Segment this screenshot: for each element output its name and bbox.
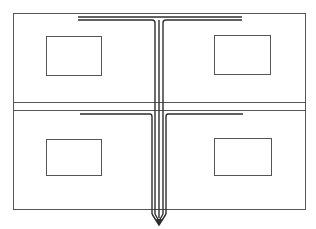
window-top-right (215, 36, 271, 75)
lower-tee-bar-left (80, 114, 152, 214)
upper-tee-bar-left-edge (78, 20, 155, 118)
window-top-left (47, 37, 102, 76)
lower-tee-bar-right (166, 114, 243, 214)
window-bottom-left (47, 140, 102, 176)
tee-structure (78, 17, 243, 225)
window-bottom-right (215, 139, 272, 176)
upper-tee-bar-right-edge (163, 20, 242, 118)
diagram-canvas (0, 0, 316, 229)
